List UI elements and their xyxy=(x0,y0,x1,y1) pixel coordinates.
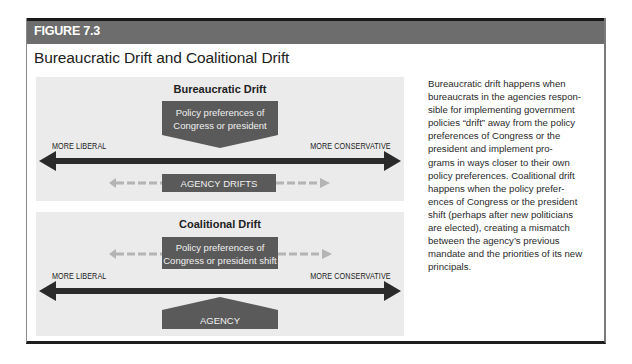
figure-label: FIGURE 7.3 xyxy=(34,24,100,38)
description-line: Bureaucratic drift happens when xyxy=(428,77,600,90)
figure-description: Bureaucratic drift happens when bureaucr… xyxy=(428,77,600,273)
policy-line-2: Congress or president xyxy=(162,119,278,132)
description-line: grams in ways closer to their own xyxy=(428,156,600,169)
figure-title: Bureaucratic Drift and Coalitional Drift xyxy=(34,49,289,67)
description-line: are elected), creating a mismatch xyxy=(428,221,600,234)
more-liberal-label: MORE LIBERAL xyxy=(52,141,106,151)
policy-line-1: Policy preferences of xyxy=(162,241,278,254)
figure-header-bar: FIGURE 7.3 xyxy=(27,18,604,44)
drift-right-dashed-arrow xyxy=(276,178,330,188)
description-line: ences of Congress or the president xyxy=(428,195,600,208)
more-conservative-label: MORE CONSERVATIVE xyxy=(310,271,391,281)
description-line: happens when the policy prefer- xyxy=(428,182,600,195)
policy-line-1: Policy preferences of xyxy=(162,106,278,119)
policy-preferences-text: Policy preferences of Congress or presid… xyxy=(162,106,278,132)
description-line: between the agency’s previous xyxy=(428,234,600,247)
description-line: president and implement pro- xyxy=(428,142,600,155)
description-line: mandate and the priorities of its new xyxy=(428,247,600,260)
description-line: preferences of Congress or the xyxy=(428,129,600,142)
description-line: bureaucrats in the agencies respon- xyxy=(428,90,600,103)
description-line: shift (perhaps after new politicians xyxy=(428,208,600,221)
description-line: sible for implementing government xyxy=(428,103,600,116)
more-liberal-label: MORE LIBERAL xyxy=(52,271,106,281)
policy-preferences-shift-text: Policy preferences of Congress or presid… xyxy=(162,241,278,267)
more-conservative-label: MORE CONSERVATIVE xyxy=(310,141,391,151)
agency-drifts-label: AGENCY DRIFTS xyxy=(162,177,276,190)
drift-left-dashed-arrow xyxy=(109,178,164,188)
shift-left-dashed-arrow xyxy=(109,249,164,259)
description-line: policy preferences. Coalitional drift xyxy=(428,169,600,182)
policy-line-2: Congress or president shift xyxy=(162,254,278,267)
ideology-axis-arrow xyxy=(39,151,401,171)
coalitional-drift-panel: Coalitional Drift Policy prefere xyxy=(36,212,404,336)
figure-container: FIGURE 7.3 Bureaucratic Drift and Coalit… xyxy=(26,18,606,344)
description-line: principals. xyxy=(428,260,600,273)
bureaucratic-drift-panel: Bureaucratic Drift Policy prefer xyxy=(36,77,404,201)
agency-label: AGENCY xyxy=(162,314,278,327)
shift-right-dashed-arrow xyxy=(278,249,332,259)
description-line: policies “drift” away from the policy xyxy=(428,116,600,129)
